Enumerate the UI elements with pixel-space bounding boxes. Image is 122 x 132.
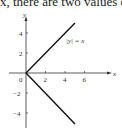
- x-tick-2: 2: [44, 76, 48, 84]
- y-tick-2: 2: [19, 50, 23, 58]
- origin-label: 0: [19, 76, 23, 84]
- x-tick-6: 6: [83, 76, 87, 84]
- x-axis-label: x: [112, 70, 117, 78]
- upper-branch-line: [26, 23, 75, 73]
- x-tick-4: 4: [63, 76, 67, 84]
- x-axis-arrow-icon: [107, 72, 112, 75]
- lower-branch-line: [26, 73, 75, 124]
- graph: y x 0 2 4 6 4 2 −2 −4 |y| = x: [0, 0, 122, 132]
- y-tick-4: 4: [19, 30, 23, 38]
- y-tick-neg2: −2: [13, 90, 21, 98]
- equation-label: |y| = x: [66, 37, 85, 45]
- y-tick-neg4: −4: [13, 110, 21, 118]
